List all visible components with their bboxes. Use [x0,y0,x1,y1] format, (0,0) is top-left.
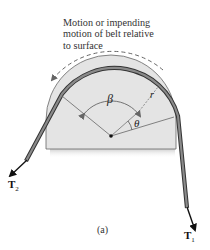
caption-line-3: to surface [63,40,203,51]
t2-label: T2 [8,178,19,193]
radius-label: r [150,89,154,100]
center-point [109,134,113,138]
t1-force-arrow [187,207,195,230]
t1-label: T1 [184,229,195,244]
figure-label: (a) [97,224,108,235]
t2-subscript: 2 [15,185,19,193]
t1-subscript: 1 [191,236,195,244]
theta-label: θ [134,117,139,129]
caption-line-1: Motion or impending [63,17,203,28]
t2-force-arrow [10,160,27,176]
disc-shadow [50,149,175,158]
motion-caption: Motion or impending motion of belt relat… [63,17,203,51]
caption-line-2: motion of belt relative [63,28,203,39]
beta-label: β [107,92,113,107]
